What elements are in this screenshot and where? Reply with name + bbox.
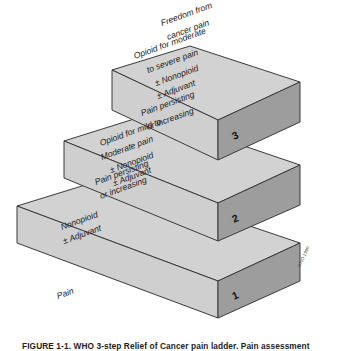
step-3-top-line-2: cancer pain xyxy=(165,17,210,42)
step-3-top-text: Freedom from cancer pain xyxy=(159,0,213,42)
ladder-svg: 1 2 3 Freedom from cancer pain Opioid fo… xyxy=(0,0,339,351)
step-3-top-line-1: Freedom from xyxy=(159,0,213,28)
figure-caption: FIGURE 1-1. WHO 3-step Relief of Cancer … xyxy=(0,341,339,351)
who-analgesic-ladder-figure: 1 2 3 Freedom from cancer pain Opioid fo… xyxy=(0,0,339,351)
baseline-pain-label: Pain xyxy=(55,286,75,301)
